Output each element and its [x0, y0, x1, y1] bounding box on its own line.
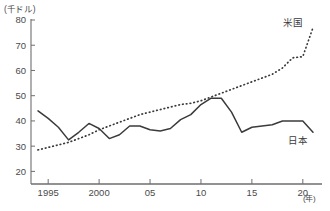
y-tick-label: 80 — [15, 14, 26, 25]
series-line-japan — [38, 98, 313, 140]
x-tick-label: 2000 — [89, 187, 110, 198]
chart-plot-area: 20304050607080 1995200005101520 — [0, 0, 330, 211]
x-tick-label: 20 — [298, 187, 309, 198]
x-axis: 1995200005101520 — [31, 179, 322, 198]
y-tick-label: 60 — [15, 65, 26, 76]
data-series-group — [38, 28, 313, 150]
y-tick-label: 50 — [15, 90, 26, 101]
x-tick-label: 1995 — [38, 187, 59, 198]
x-tick-label: 15 — [247, 187, 258, 198]
y-tick-label: 30 — [15, 141, 26, 152]
y-tick-label: 40 — [15, 115, 26, 126]
x-tick-label: 05 — [145, 187, 156, 198]
x-tick-label: 10 — [196, 187, 207, 198]
y-axis: 20304050607080 — [15, 14, 35, 184]
y-tick-label: 70 — [15, 40, 26, 51]
line-chart: (千ドル) (年) 米国 日本 20304050607080 199520000… — [0, 0, 330, 211]
y-tick-label: 20 — [15, 166, 26, 177]
